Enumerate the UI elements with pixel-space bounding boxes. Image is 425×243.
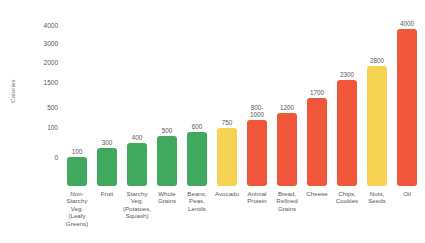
- bar[interactable]: [67, 157, 87, 186]
- x-axis-label-line: Seeds: [362, 197, 392, 204]
- x-axis-label-line: Non-: [62, 190, 92, 197]
- bar[interactable]: [277, 113, 297, 186]
- bar-value-line: 1700: [297, 90, 337, 97]
- bar-value-line: 400: [117, 135, 157, 142]
- x-axis-label-line: Lentils: [182, 205, 212, 212]
- x-axis-label: Fruit: [92, 190, 122, 197]
- y-axis-tick-3000: 3000: [26, 40, 58, 47]
- x-axis-label: Oil: [392, 190, 422, 197]
- bar-value-label: 4000: [387, 21, 425, 28]
- bar-slot[interactable]: 1700: [307, 0, 327, 186]
- bar-value-line: 750: [207, 120, 247, 127]
- bar[interactable]: [157, 136, 177, 186]
- x-axis-label-line: Squash): [122, 212, 152, 219]
- x-axis-label-line: Beans,: [182, 190, 212, 197]
- x-axis-label-line: Cookies: [332, 197, 362, 204]
- bar-slot[interactable]: 4000: [397, 0, 417, 186]
- x-axis-label: Avocado: [212, 190, 242, 197]
- x-axis-label-line: Grains: [272, 205, 302, 212]
- x-axis-label-line: Chips,: [332, 190, 362, 197]
- x-axis-label-line: (Potatoes,: [122, 205, 152, 212]
- bar[interactable]: [397, 29, 417, 186]
- calories-bar-chart: Calories 40003000200015005001000 1003004…: [0, 0, 425, 243]
- bar-slot[interactable]: 1200: [277, 0, 297, 186]
- bar-value-label: 2800: [357, 58, 397, 65]
- y-axis-tick-2000: 2000: [26, 59, 58, 66]
- x-axis-label-line: Peas,: [182, 197, 212, 204]
- bar[interactable]: [127, 143, 147, 186]
- bar[interactable]: [217, 128, 237, 186]
- bar-value-line: 100: [57, 149, 97, 156]
- bar[interactable]: [367, 66, 387, 186]
- bar-value-line: 1200: [267, 105, 307, 112]
- x-axis-label-line: Starchy: [122, 190, 152, 197]
- bar[interactable]: [187, 132, 207, 186]
- y-axis-tick-1500: 1500: [26, 79, 58, 86]
- y-axis-tick-0: 0: [26, 154, 58, 161]
- x-axis-label-line: (Leafy: [62, 212, 92, 219]
- x-axis-label-line: Greens): [62, 220, 92, 227]
- x-axis-label-line: Grains: [152, 197, 182, 204]
- y-axis-tick-100: 100: [26, 124, 58, 131]
- x-axis-label: Chips,Cookies: [332, 190, 362, 205]
- plot-area: 100300400500600750800-100012001700230028…: [62, 0, 422, 186]
- bar[interactable]: [97, 148, 117, 186]
- x-axis-label: Bread,RefinedGrains: [272, 190, 302, 212]
- x-axis-label-line: Cheese: [302, 190, 332, 197]
- bar-value-label: 2300: [327, 72, 367, 79]
- bar-slot[interactable]: 750: [217, 0, 237, 186]
- bar-slot[interactable]: 2300: [337, 0, 357, 186]
- bar-value-label: 750: [207, 120, 247, 127]
- bar-slot[interactable]: 600: [187, 0, 207, 186]
- x-axis-label-line: Animal: [242, 190, 272, 197]
- bar-value-line: 4000: [387, 21, 425, 28]
- x-axis-label: Cheese: [302, 190, 332, 197]
- y-axis-title: Calories: [10, 56, 16, 126]
- bar-value-label: 1700: [297, 90, 337, 97]
- x-axis-label: Nuts,Seeds: [362, 190, 392, 205]
- x-axis-label: WholeGrains: [152, 190, 182, 205]
- x-axis-label-line: Avocado: [212, 190, 242, 197]
- y-axis-tick-500: 500: [26, 104, 58, 111]
- bar-value-label: 1200: [267, 105, 307, 112]
- x-axis-label-line: Bread,: [272, 190, 302, 197]
- bar[interactable]: [247, 120, 267, 186]
- x-axis-label-line: Refined: [272, 197, 302, 204]
- x-axis-label-line: Nuts,: [362, 190, 392, 197]
- bar-value-label: 100: [57, 149, 97, 156]
- bar-slot[interactable]: 500: [157, 0, 177, 186]
- y-axis-tick-4000: 4000: [26, 22, 58, 29]
- bar-slot[interactable]: 400: [127, 0, 147, 186]
- x-axis-tick-labels: Non-StarchyVeg.(LeafyGreens)FruitStarchy…: [62, 190, 422, 243]
- bar-value-line: 2300: [327, 72, 367, 79]
- x-axis-label: StarchyVeg.(Potatoes,Squash): [122, 190, 152, 220]
- x-axis-label-line: Veg.: [62, 205, 92, 212]
- bar-slot[interactable]: 2800: [367, 0, 387, 186]
- bar-slot[interactable]: 800-1000: [247, 0, 267, 186]
- x-axis-label-line: Whole: [152, 190, 182, 197]
- bar-slot[interactable]: 100: [67, 0, 87, 186]
- x-axis-label-line: Protein: [242, 197, 272, 204]
- x-axis-label-line: Fruit: [92, 190, 122, 197]
- x-axis-label: AnimalProtein: [242, 190, 272, 205]
- x-axis-label-line: Oil: [392, 190, 422, 197]
- x-axis-label-line: Starchy: [62, 197, 92, 204]
- bar-value-line: 1000: [237, 112, 277, 119]
- x-axis-label: Beans,Peas,Lentils: [182, 190, 212, 212]
- bar[interactable]: [337, 80, 357, 186]
- bar-slot[interactable]: 300: [97, 0, 117, 186]
- bar[interactable]: [307, 98, 327, 186]
- bar-value-line: 2800: [357, 58, 397, 65]
- x-axis-label: Non-StarchyVeg.(LeafyGreens): [62, 190, 92, 227]
- x-axis-label-line: Veg.: [122, 197, 152, 204]
- bar-value-label: 400: [117, 135, 157, 142]
